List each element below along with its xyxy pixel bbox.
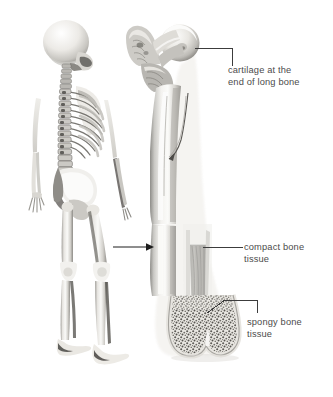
bone-anatomy-figure: cartilage at the end of long bone compac… [0, 0, 333, 397]
label-cartilage-at-end-of-long-bone: cartilage at the end of long bone [228, 64, 332, 88]
label-compact-bone-tissue: compact bone tissue [244, 241, 332, 265]
label-spongy-bone-tissue: spongy bone tissue [247, 316, 331, 340]
